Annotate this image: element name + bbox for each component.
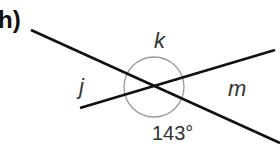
angle-label-143: 143° (152, 122, 193, 144)
angle-label-k: k (154, 28, 166, 53)
intersecting-lines-diagram: h) k j m 143° (0, 0, 280, 150)
angle-label-m: m (228, 76, 246, 101)
part-label: h) (0, 6, 21, 33)
angle-label-j: j (76, 74, 85, 99)
